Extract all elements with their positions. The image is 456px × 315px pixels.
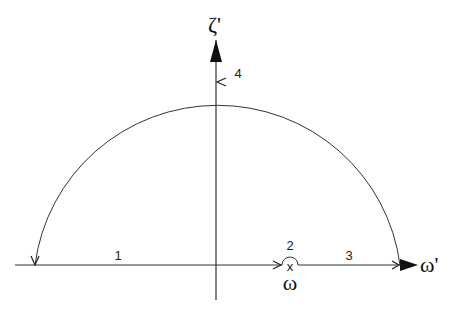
horizontal-axis-arrowhead xyxy=(400,259,418,271)
horizontal-axis-label: ω' xyxy=(420,252,438,277)
contour-arc-4 xyxy=(35,105,400,265)
vertical-axis-arrowhead xyxy=(210,40,222,62)
contour-diagram: x 1 2 3 4 ω ω' ζ' xyxy=(0,0,456,315)
arc-arrow-left-end xyxy=(31,256,39,265)
segment-label-4: 4 xyxy=(234,66,241,81)
vertical-axis-label: ζ' xyxy=(208,12,221,37)
arc-arrow-4 xyxy=(217,78,226,86)
pole-label: ω xyxy=(283,270,297,295)
segment-label-1: 1 xyxy=(114,248,121,263)
segment-label-3: 3 xyxy=(345,248,352,263)
segment-label-2: 2 xyxy=(286,238,293,253)
